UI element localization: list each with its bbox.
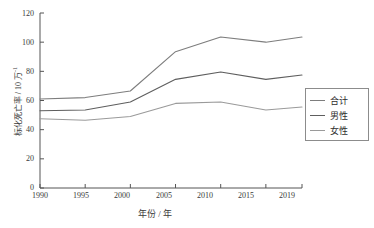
line-chart-figure: 标化死亡率 / 10 万-1 年份 / 年 120 100 80 60 40 2… <box>0 0 374 228</box>
x-tick-label-1990: 1990 <box>23 192 57 200</box>
y-tick-label-20: 20 <box>8 155 34 163</box>
x-tick-label-2015: 2015 <box>229 192 263 200</box>
x-tick-label-2010: 2010 <box>188 192 222 200</box>
legend-item-female[interactable]: 女性 <box>310 123 368 137</box>
series-line-2 <box>40 102 302 120</box>
x-tick-label-2000: 2000 <box>105 192 139 200</box>
y-tick-marks <box>40 13 44 188</box>
legend-line-icon-female <box>310 130 325 131</box>
legend-item-male[interactable]: 男性 <box>310 108 368 122</box>
y-tick-label-0: 0 <box>8 184 34 192</box>
x-tick-label-2019: 2019 <box>270 192 304 200</box>
series-line-0 <box>40 37 302 99</box>
legend: 合计 男性 女性 <box>305 88 369 141</box>
legend-label-total: 合计 <box>330 94 348 107</box>
legend-item-total[interactable]: 合计 <box>310 93 368 107</box>
x-tick-label-1995: 1995 <box>64 192 98 200</box>
legend-line-icon-total <box>310 100 325 101</box>
x-tick-marks <box>40 184 302 188</box>
y-tick-label-40: 40 <box>8 126 34 134</box>
x-axis-title: 年份 / 年 <box>0 207 310 220</box>
y-tick-label-60: 60 <box>8 97 34 105</box>
x-tick-label-2005: 2005 <box>147 192 181 200</box>
y-tick-label-80: 80 <box>8 68 34 76</box>
y-tick-label-100: 100 <box>8 39 34 47</box>
series-lines <box>40 37 302 120</box>
legend-label-female: 女性 <box>330 124 348 137</box>
legend-line-icon-male <box>310 115 325 116</box>
y-tick-label-120: 120 <box>8 10 34 18</box>
legend-label-male: 男性 <box>330 109 348 122</box>
